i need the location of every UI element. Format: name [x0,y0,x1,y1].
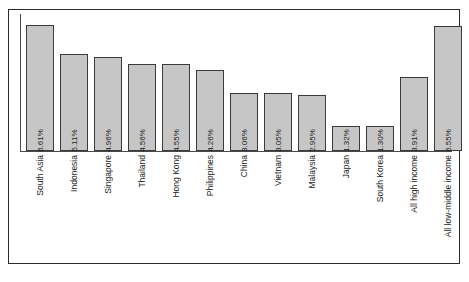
bar[interactable]: 5.11% [60,54,88,151]
bar-group: 1.30% [366,126,394,151]
bar[interactable]: 6.61% [26,25,54,151]
bar[interactable]: 4.96% [94,57,122,151]
bar-value-label: 3.06% [240,129,249,152]
x-axis-category-text: All high income [409,155,419,213]
x-axis-category-label: Japan [332,155,360,178]
x-axis-category-label: South Korea [366,155,394,202]
x-axis-category-label: Thailand [128,155,156,188]
bars-layer: 6.61%South Asia5.11%Indonesia4.96%Singap… [8,9,460,264]
bar-value-label: 2.95% [308,129,317,152]
bar-group: 2.95% [298,95,326,151]
bar[interactable]: 6.55% [434,26,462,151]
bar-group: 4.55% [162,64,190,151]
x-axis-category-text: Singapore [103,155,113,194]
bar[interactable]: 1.32% [332,126,360,151]
bar-chart: 6.61%South Asia5.11%Indonesia4.96%Singap… [0,0,469,282]
bar-value-label: 1.30% [376,129,385,152]
x-axis-category-text: Japan [341,155,351,178]
x-axis-category-label: China [230,155,258,177]
bar-group: 4.96% [94,57,122,151]
x-axis-category-text: Hong Kong [171,155,181,198]
x-axis-category-text: All low-middle income [443,155,453,237]
bar-group: 4.56% [128,64,156,151]
x-axis-category-label: All high income [400,155,428,213]
x-axis-category-text: Vietnam [273,155,283,186]
x-axis-category-text: China [239,155,249,177]
bar-value-label: 3.05% [274,129,283,152]
bar[interactable]: 2.95% [298,95,326,151]
bar-group: 6.55% [434,26,462,151]
bar[interactable]: 3.91% [400,77,428,151]
bar[interactable]: 1.30% [366,126,394,151]
x-axis-category-label: Malaysia [298,155,326,189]
bar-group: 3.06% [230,93,258,151]
bar-group: 1.32% [332,126,360,151]
bar[interactable]: 4.26% [196,70,224,151]
bar-value-label: 4.55% [172,129,181,152]
x-axis-category-label: South Asia [26,155,54,196]
bar-group: 5.11% [60,54,88,151]
x-axis-category-text: Indonesia [69,155,79,192]
x-axis-category-text: South Korea [375,155,385,202]
bar-value-label: 3.91% [410,129,419,152]
x-axis-category-label: All low-middle income [434,155,462,237]
x-axis-category-label: Hong Kong [162,155,190,198]
bar-value-label: 5.11% [70,129,79,151]
x-axis-category-label: Philippines [196,155,224,196]
bar-group: 3.05% [264,93,292,151]
bar[interactable]: 3.05% [264,93,292,151]
bar-value-label: 1.32% [342,129,351,152]
x-axis-category-text: South Asia [35,155,45,196]
bar-group: 3.91% [400,77,428,151]
bar[interactable]: 4.56% [128,64,156,151]
x-axis-category-label: Vietnam [264,155,292,186]
bar-value-label: 4.26% [206,129,215,152]
x-axis-category-text: Thailand [137,155,147,188]
bar[interactable]: 4.55% [162,64,190,151]
bar-value-label: 4.96% [104,129,113,152]
x-axis-category-label: Indonesia [60,155,88,192]
bar-group: 4.26% [196,70,224,151]
bar[interactable]: 3.06% [230,93,258,151]
x-axis-category-label: Singapore [94,155,122,194]
bar-value-label: 4.56% [138,129,147,152]
x-axis-category-text: Philippines [205,155,215,196]
bar-group: 6.61% [26,25,54,151]
bar-value-label: 6.55% [444,129,453,152]
bar-value-label: 6.61% [36,129,45,152]
x-axis-category-text: Malaysia [307,155,317,189]
